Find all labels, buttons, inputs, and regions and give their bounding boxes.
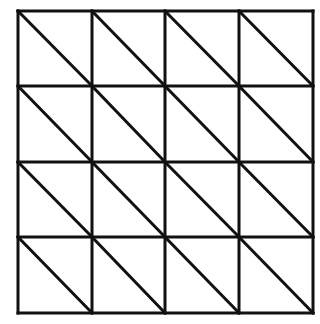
- triangle-grid-diagram: [0, 0, 320, 324]
- cell-diagonal-line: [239, 237, 313, 313]
- cell-diagonal-line: [165, 11, 239, 86]
- cell-diagonal-line: [18, 86, 92, 162]
- cell-diagonal-line: [165, 237, 239, 313]
- cell-diagonal-line: [165, 162, 239, 237]
- cell-diagonal-line: [92, 237, 165, 313]
- cell-diagonal-line: [18, 237, 92, 313]
- cell-diagonal-line: [18, 11, 92, 86]
- cell-diagonal-line: [92, 162, 165, 237]
- cell-diagonal-line: [239, 11, 313, 86]
- cell-diagonal-line: [18, 162, 92, 237]
- cell-diagonal-line: [92, 86, 165, 162]
- cell-diagonal-line: [92, 11, 165, 86]
- cell-diagonal-line: [239, 86, 313, 162]
- cell-diagonal-line: [165, 86, 239, 162]
- grid-canvas: [0, 0, 320, 324]
- cell-diagonal-line: [239, 162, 313, 237]
